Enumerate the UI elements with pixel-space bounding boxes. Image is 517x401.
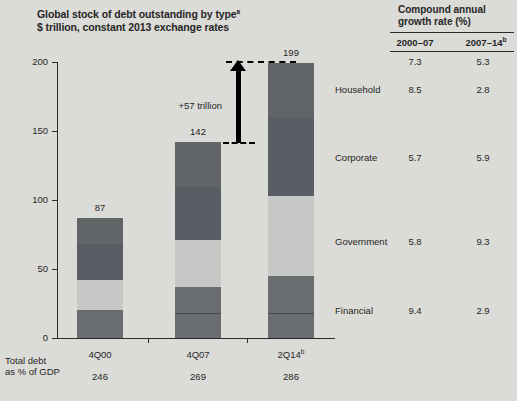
gdp-percent-value: 246 — [70, 371, 130, 382]
bar-inner-line — [268, 313, 314, 314]
table-value-2007-14: 5.9 — [458, 152, 508, 163]
table-value-2000-07: 8.5 — [390, 84, 440, 95]
table-value-2007-14: 5.3 — [458, 56, 508, 67]
y-tick-label: 100 — [18, 194, 48, 205]
x-category-label: 4Q00 — [70, 349, 130, 360]
table-value-2000-07: 7.3 — [390, 56, 440, 67]
gdp-percent-value: 286 — [261, 371, 321, 382]
bar-inner-line — [175, 313, 221, 314]
bar-segment-household — [77, 218, 123, 244]
x-category-label: 2Q14b — [261, 349, 321, 360]
gdp-percent-value: 269 — [168, 371, 228, 382]
growth-table-header: Compound annual growth rate (%) — [398, 4, 514, 28]
table-row-label: Household — [335, 84, 380, 95]
footnote-marker-a: a — [237, 8, 241, 15]
table-row-label: Corporate — [335, 152, 377, 163]
y-tick-label: 200 — [18, 56, 48, 67]
bar-segment-government — [77, 280, 123, 310]
growth-arrow-label: +57 trillion — [152, 100, 222, 111]
table-value-2000-07: 5.8 — [390, 236, 440, 247]
table-value-2007-14: 2.9 — [458, 305, 508, 316]
footnote-marker-b: b — [503, 36, 507, 43]
bar-segment-household — [268, 63, 314, 118]
table-col-2007-14: 2007–14b — [456, 37, 516, 48]
y-tick-label: 50 — [18, 263, 48, 274]
growth-arrow-shaft — [236, 69, 241, 143]
y-tick-mark — [52, 200, 57, 201]
x-category-label: 4Q07 — [168, 349, 228, 360]
table-value-2000-07: 5.7 — [390, 152, 440, 163]
chart-title: Global stock of debt outstanding by type… — [37, 8, 240, 34]
bar-total-label: 87 — [70, 202, 130, 213]
x-axis-tick — [148, 339, 149, 343]
bar-total-label: 199 — [261, 47, 321, 58]
bar-segment-corporate — [268, 118, 314, 195]
y-tick-label: 150 — [18, 125, 48, 136]
bar-segment-financial — [77, 310, 123, 338]
bar-segment-household — [175, 142, 221, 188]
table-rule-top — [390, 32, 514, 33]
bar-segment-corporate — [175, 187, 221, 239]
y-tick-mark — [52, 62, 57, 63]
y-tick-mark — [52, 269, 57, 270]
table-col-2000-07: 2000–07 — [385, 37, 445, 48]
growth-arrow-head-icon — [230, 60, 246, 71]
bar-total-label: 142 — [168, 126, 228, 137]
chart-subtitle: $ trillion, constant 2013 exchange rates — [37, 21, 229, 33]
y-tick-mark — [52, 131, 57, 132]
table-row-label: Government — [335, 236, 387, 247]
gdp-row-caption: Total debt as % of GDP — [5, 355, 60, 377]
bar-segment-corporate — [77, 244, 123, 280]
table-value-2007-14: 2.8 — [458, 84, 508, 95]
footnote-marker-b: b — [301, 348, 305, 355]
x-axis-line — [57, 338, 335, 339]
table-value-2007-14: 9.3 — [458, 236, 508, 247]
table-row-label: Financial — [335, 305, 373, 316]
bar-segment-government — [175, 240, 221, 287]
exhibit-canvas: Global stock of debt outstanding by type… — [0, 0, 517, 401]
x-axis-tick — [247, 339, 248, 343]
y-axis-line — [57, 62, 58, 339]
y-tick-label: 0 — [18, 332, 48, 343]
bar-segment-government — [268, 196, 314, 276]
table-value-2000-07: 9.4 — [390, 305, 440, 316]
table-rule-header — [390, 51, 514, 52]
bar-segment-financial — [268, 276, 314, 338]
